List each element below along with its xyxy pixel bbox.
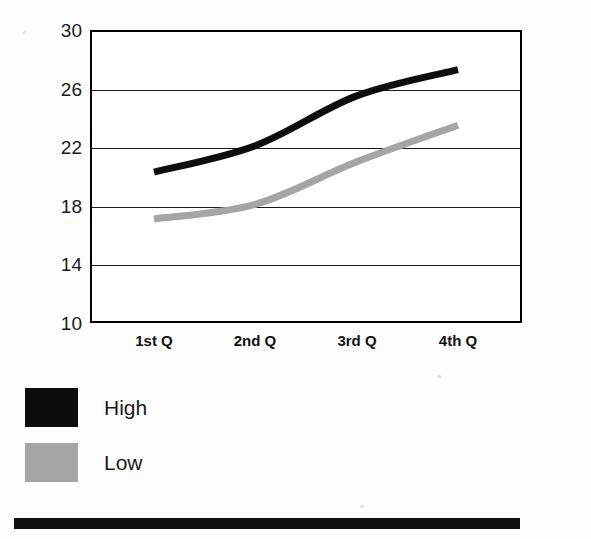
scan-speck <box>360 505 364 508</box>
legend-item-low: Low <box>25 443 285 498</box>
legend-swatch-high <box>25 388 78 427</box>
series-line-low <box>154 125 458 219</box>
series-layer <box>90 30 522 323</box>
y-tick-label: 26 <box>36 80 82 99</box>
x-tick-label: 2nd Q <box>210 333 300 350</box>
line-chart: 30 26 22 18 14 10 1st Q 2nd Q 3rd Q 4th … <box>0 0 591 370</box>
y-tick-label: 18 <box>36 197 82 216</box>
legend-swatch-low <box>25 443 78 482</box>
y-tick-label: 30 <box>36 21 82 40</box>
x-axis: 1st Q 2nd Q 3rd Q 4th Q <box>90 333 522 359</box>
x-tick-label: 1st Q <box>109 333 199 350</box>
y-axis: 30 26 22 18 14 10 <box>30 30 82 323</box>
chart-legend: High Low <box>25 388 285 498</box>
y-tick-label: 14 <box>36 255 82 274</box>
series-line-high <box>154 70 458 173</box>
legend-label-high: High <box>104 397 147 418</box>
y-tick-label: 22 <box>36 138 82 157</box>
figure-canvas: 30 26 22 18 14 10 1st Q 2nd Q 3rd Q 4th … <box>0 0 591 539</box>
bottom-rule <box>14 518 520 529</box>
scan-speck <box>437 375 441 378</box>
y-tick-label: 10 <box>36 314 82 333</box>
legend-label-low: Low <box>104 452 143 473</box>
legend-item-high: High <box>25 388 285 443</box>
x-tick-label: 4th Q <box>413 333 503 350</box>
x-tick-label: 3rd Q <box>312 333 402 350</box>
